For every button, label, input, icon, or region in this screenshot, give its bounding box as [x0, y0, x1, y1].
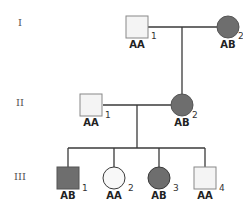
number-III-3: 3 [173, 183, 179, 193]
genotype-III-4: AA [190, 190, 220, 201]
individual-I-2-circle [217, 16, 239, 38]
individual-III-4-square [194, 167, 216, 189]
generation-label-II: II [16, 97, 24, 108]
number-II-2: 2 [192, 110, 198, 120]
generation-label-I: I [18, 17, 22, 28]
individual-II-2-circle [171, 94, 193, 116]
individual-III-2-circle [103, 167, 125, 189]
pedigree-lines [0, 0, 243, 215]
genotype-I-1: AA [122, 39, 152, 50]
number-III-2: 2 [128, 183, 134, 193]
genotype-III-2: AA [99, 190, 129, 201]
individual-III-3-circle [148, 167, 170, 189]
number-I-1: 1 [151, 31, 157, 41]
individual-I-1-square [126, 16, 148, 38]
number-II-1: 1 [105, 110, 111, 120]
genotype-III-1: AB [53, 190, 83, 201]
genotype-III-3: AB [144, 190, 174, 201]
genotype-II-1: AA [76, 117, 106, 128]
generation-label-III: III [14, 171, 26, 182]
number-III-1: 1 [82, 183, 88, 193]
individual-III-1-square [57, 167, 79, 189]
individual-II-1-square [80, 94, 102, 116]
number-III-4: 4 [219, 183, 225, 193]
number-I-2: 2 [238, 31, 243, 41]
